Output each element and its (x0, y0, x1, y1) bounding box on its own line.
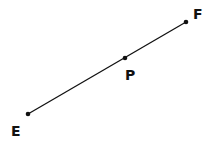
point-f (184, 20, 189, 25)
label-f: F (193, 6, 203, 22)
label-p: P (125, 67, 135, 83)
segment-ef (28, 22, 186, 114)
diagram-svg: E P F (0, 0, 215, 146)
geometry-diagram: E P F (0, 0, 215, 146)
point-p (123, 56, 128, 61)
label-e: E (11, 123, 21, 139)
point-e (26, 112, 31, 117)
